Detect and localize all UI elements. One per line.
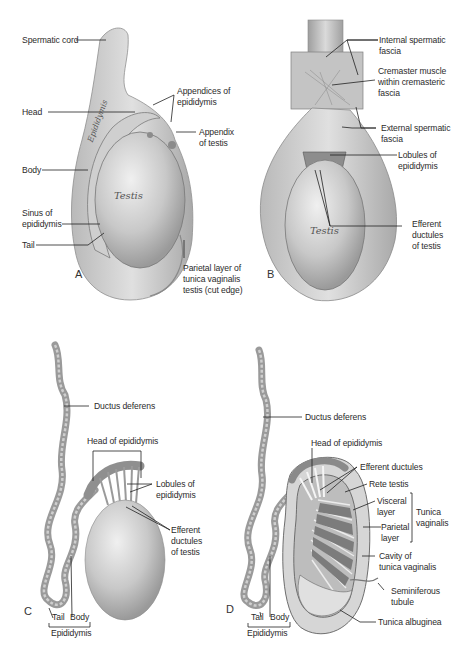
label-appendices-of-epididymis: Appendices of epididymis xyxy=(177,86,230,108)
label-cremaster-muscle: Cremaster muscle within cremasteric fasc… xyxy=(378,66,446,99)
label-visceral-layer: Visceral layer xyxy=(377,496,407,518)
label-cavity-of-tunica-vaginalis: Cavity of tunica vaginalis xyxy=(379,551,436,573)
panel-letter-c: C xyxy=(24,605,32,617)
label-internal-spermatic-fascia: Internal spermatic fascia xyxy=(379,35,446,57)
label-efferent-ductules-c: Efferent ductules of testis xyxy=(171,525,202,558)
label-tunica-vaginalis: Tunica vaginalis xyxy=(416,507,449,529)
label-body-d: Body xyxy=(270,612,289,623)
label-tail-d: Tail xyxy=(251,612,264,623)
label-efferent-ductules-d: Efferent ductules xyxy=(360,462,423,473)
label-external-spermatic-fascia: External spermatic fascia xyxy=(381,123,450,145)
label-ductus-deferens-c: Ductus deferens xyxy=(94,401,155,412)
label-parietal-layer-d: Parietal layer xyxy=(381,522,409,544)
label-body-c: Body xyxy=(70,612,89,623)
label-tunica-albuginea: Tunica albuginea xyxy=(378,617,442,628)
label-efferent-ductules-b: Efferent ductules of testis xyxy=(412,219,443,252)
label-head-of-epididymis-c: Head of epididymis xyxy=(87,436,158,447)
panel-d-drawing xyxy=(244,350,378,634)
label-spermatic-cord: Spermatic cord xyxy=(22,35,78,46)
label-head-of-epididymis-d: Head of epididymis xyxy=(311,438,382,449)
label-head: Head xyxy=(22,107,42,118)
testis-inline-label-a: Testis xyxy=(114,190,143,201)
panel-a-drawing xyxy=(71,28,192,300)
label-seminiferous-tubule: Seminiferous tubule xyxy=(391,586,440,608)
panel-letter-d: D xyxy=(226,603,234,615)
label-appendix-of-testis: Appendix of testis xyxy=(199,127,234,149)
panel-c-drawing xyxy=(44,345,165,620)
label-tail: Tail xyxy=(22,240,35,251)
label-lobules-of-epididymis-b: Lobules of epididymis xyxy=(398,150,438,172)
panel-letter-a: A xyxy=(75,268,82,280)
label-sinus-of-epididymis: Sinus of epididymis xyxy=(22,208,62,230)
panel-b-drawing xyxy=(260,20,396,301)
label-tail-c: Tail xyxy=(52,612,65,623)
label-parietal-layer-cut-edge: Parietal layer of tunica vaginalis testi… xyxy=(183,263,242,296)
testis-inline-label-b: Testis xyxy=(310,225,339,236)
label-rete-testis: Rete testis xyxy=(369,479,409,490)
panel-letter-b: B xyxy=(267,268,274,280)
label-epididymis-d: Epididymis xyxy=(247,628,288,639)
label-epididymis-c: Epididymis xyxy=(51,628,92,639)
label-ductus-deferens-d: Ductus deferens xyxy=(305,412,366,423)
label-lobules-of-epididymis-c: Lobules of epididymis xyxy=(156,479,196,501)
label-body: Body xyxy=(22,165,41,176)
